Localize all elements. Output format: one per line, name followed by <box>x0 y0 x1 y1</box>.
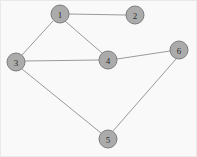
graph-canvas: 1 2 3 4 5 6 <box>1 1 197 157</box>
graph-node-6[interactable]: 6 <box>170 41 188 59</box>
graph-node-5[interactable]: 5 <box>99 130 117 148</box>
graph-node-4[interactable]: 4 <box>99 51 117 69</box>
graph-edge-1-2 <box>69 14 126 15</box>
edge-layer <box>22 14 176 133</box>
graph-node-circle[interactable] <box>99 130 117 148</box>
graph-edge-5-6 <box>113 59 176 131</box>
graph-node-3[interactable]: 3 <box>7 53 25 71</box>
graph-node-circle[interactable] <box>126 6 144 24</box>
graph-node-1[interactable]: 1 <box>51 5 69 23</box>
graph-edge-1-3 <box>22 21 53 55</box>
graph-edge-4-6 <box>117 51 170 59</box>
graph-edge-1-4 <box>65 21 102 53</box>
graph-edge-3-5 <box>22 69 101 133</box>
graph-node-circle[interactable] <box>99 51 117 69</box>
graph-diagram: 1 2 3 4 5 6 <box>0 0 197 157</box>
graph-node-circle[interactable] <box>51 5 69 23</box>
graph-node-circle[interactable] <box>170 41 188 59</box>
graph-edge-3-4 <box>25 60 99 61</box>
graph-node-circle[interactable] <box>7 53 25 71</box>
graph-node-2[interactable]: 2 <box>126 6 144 24</box>
